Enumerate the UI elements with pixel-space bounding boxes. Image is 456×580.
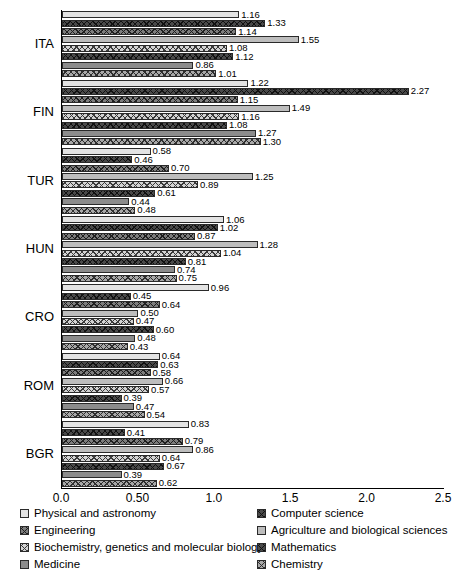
bar-value-label: 1.22 — [248, 78, 269, 88]
plot-region: ITAFINTURHUNCROROMBGR 1.161.331.141.551.… — [0, 0, 456, 500]
bar-row: 0.86 — [62, 446, 443, 453]
legend-item[interactable]: Physical and astronomy — [20, 506, 263, 521]
bar-row: 0.48 — [62, 207, 443, 214]
bar-value-label: 1.04 — [221, 248, 242, 258]
category-axis-labels: ITAFINTURHUNCROROMBGR — [0, 0, 60, 488]
bar-group-tur: 0.580.460.701.250.890.610.440.48 — [62, 147, 443, 215]
bar-row: 1.06 — [62, 216, 443, 223]
legend-swatch-icon — [257, 543, 266, 552]
bar — [62, 113, 239, 120]
x-tick-label: 0.50 — [126, 492, 149, 504]
bar-value-label: 0.45 — [131, 292, 152, 302]
bar — [62, 233, 195, 240]
legend-item[interactable]: Engineering — [20, 523, 263, 538]
bar-row: 0.96 — [62, 284, 443, 291]
bar-row: 1.22 — [62, 80, 443, 87]
bar — [62, 20, 265, 27]
bar — [62, 207, 135, 214]
bar-value-label: 1.25 — [253, 172, 274, 182]
legend-label: Medicine — [34, 559, 80, 571]
bar-row: 0.44 — [62, 198, 443, 205]
legend-label: Chemistry — [271, 559, 323, 571]
bar-value-label: 1.55 — [299, 35, 320, 45]
bar-value-label: 0.64 — [160, 300, 181, 310]
bar-row: 0.54 — [62, 411, 443, 418]
legend-item[interactable]: Computer science — [257, 506, 447, 521]
bar — [62, 224, 218, 231]
bar — [62, 88, 409, 95]
bar-value-label: 0.86 — [193, 445, 214, 455]
legend-label: Physical and astronomy — [34, 508, 156, 520]
x-tick-label: 1.5 — [282, 492, 299, 504]
bar — [62, 266, 175, 273]
bar-row: 1.28 — [62, 241, 443, 248]
bar-row: 1.16 — [62, 11, 443, 18]
legend-item[interactable]: Agriculture and biological sciences — [257, 523, 447, 538]
bar-value-label: 1.33 — [265, 18, 286, 28]
bar — [62, 310, 138, 317]
x-tick-label: 0.0 — [53, 492, 70, 504]
bar-value-label: 0.41 — [125, 428, 146, 438]
bar-value-label: 0.62 — [157, 478, 178, 488]
bar-value-label: 0.86 — [193, 60, 214, 70]
bar-row: 1.04 — [62, 250, 443, 257]
bar — [62, 122, 227, 129]
bar — [62, 343, 128, 350]
bar — [62, 463, 164, 470]
bar-row: 1.25 — [62, 173, 443, 180]
legend-swatch-icon — [20, 560, 29, 569]
legend-item[interactable]: Mathematics — [257, 540, 447, 555]
legend-item[interactable]: Biochemistry, genetics and molecular bio… — [20, 540, 263, 555]
bar-value-label: 0.43 — [128, 342, 149, 352]
bar-row: 1.55 — [62, 36, 443, 43]
bar-row: 0.39 — [62, 395, 443, 402]
bar-value-label: 1.49 — [290, 103, 311, 113]
x-tick-label: 1.0 — [205, 492, 222, 504]
bar-row: 0.47 — [62, 318, 443, 325]
category-label-bgr: BGR — [26, 447, 54, 460]
bar-row: 0.64 — [62, 455, 443, 462]
bar — [62, 471, 122, 478]
bar — [62, 318, 134, 325]
bar-row: 1.27 — [62, 130, 443, 137]
bar — [62, 411, 145, 418]
bar — [62, 455, 160, 462]
bar-row: 0.60 — [62, 326, 443, 333]
bar-row: 0.66 — [62, 378, 443, 385]
legend-swatch-icon — [20, 543, 29, 552]
bar — [62, 480, 157, 487]
legend-swatch-icon — [20, 509, 29, 518]
legend-item[interactable]: Medicine — [20, 557, 263, 572]
bar-value-label: 0.58 — [151, 147, 172, 157]
bar-value-label: 0.54 — [145, 410, 166, 420]
bar-row: 0.75 — [62, 275, 443, 282]
bar-row: 0.41 — [62, 429, 443, 436]
bar-row: 0.58 — [62, 148, 443, 155]
bar-row: 0.67 — [62, 463, 443, 470]
x-tick-label: 2.0 — [358, 492, 375, 504]
bar-value-label: 0.60 — [154, 325, 175, 335]
bar-value-label: 1.30 — [261, 137, 282, 147]
bar — [62, 353, 160, 360]
category-label-fin: FIN — [33, 105, 54, 118]
bar — [62, 293, 131, 300]
bar-row: 0.47 — [62, 403, 443, 410]
bar — [62, 80, 248, 87]
bar-value-label: 0.48 — [135, 205, 156, 215]
bar-value-label: 1.14 — [236, 27, 257, 37]
legend-item[interactable]: Chemistry — [257, 557, 447, 572]
bar-row: 0.57 — [62, 386, 443, 393]
bar-value-label: 0.70 — [169, 163, 190, 173]
bar — [62, 165, 169, 172]
bar-value-label: 1.12 — [233, 52, 254, 62]
legend-swatch-icon — [257, 560, 266, 569]
bar — [62, 258, 186, 265]
bar-row: 0.86 — [62, 62, 443, 69]
legend-swatch-icon — [257, 509, 266, 518]
legend-swatch-icon — [20, 526, 29, 535]
bar — [62, 361, 158, 368]
bar-row: 0.63 — [62, 361, 443, 368]
bar-value-label: 1.08 — [227, 120, 248, 130]
bar-value-label: 0.96 — [209, 283, 230, 293]
bar — [62, 395, 122, 402]
